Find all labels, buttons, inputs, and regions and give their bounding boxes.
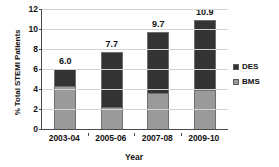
y-axis-tickmark: [39, 9, 42, 10]
bar-stack[interactable]: [147, 32, 169, 129]
y-axis-tick-label: 8: [16, 45, 38, 54]
gridline: [42, 9, 228, 10]
bar-segment-des[interactable]: [54, 69, 76, 86]
x-axis-tickmark: [181, 133, 182, 136]
y-axis-tick-label: 4: [16, 85, 38, 94]
y-axis-tickmark: [39, 69, 42, 70]
bar-segment-bms[interactable]: [101, 107, 123, 129]
y-axis-tickmark: [39, 29, 42, 30]
gridline: [42, 29, 228, 30]
legend-swatch-icon: [233, 79, 239, 85]
stacked-bar-chart: % Total STEMI Patients 024681012 6.07.79…: [0, 0, 279, 167]
x-axis-tick-label: 2009-10: [188, 133, 219, 143]
legend-swatch-icon: [233, 64, 239, 70]
gridline: [42, 69, 228, 70]
y-axis-tickmark: [39, 49, 42, 50]
chart-legend: DESBMS: [233, 62, 277, 92]
legend-item[interactable]: BMS: [233, 77, 277, 86]
y-axis-tickmark: [39, 109, 42, 110]
x-axis-tick-label: 2003-04: [49, 133, 80, 143]
legend-item[interactable]: DES: [233, 62, 277, 71]
legend-label: BMS: [242, 78, 260, 86]
y-axis-tick-labels: 024681012: [16, 5, 38, 129]
gridline: [42, 89, 228, 90]
plot-area: 6.07.79.710.9: [41, 9, 228, 130]
bar-stack[interactable]: [194, 20, 216, 129]
gridline: [42, 49, 228, 50]
legend-label: DES: [242, 63, 258, 71]
bar-stack[interactable]: [101, 52, 123, 129]
x-axis-title: Year: [41, 152, 227, 162]
bar-segment-bms[interactable]: [54, 86, 76, 129]
y-axis-tick-label: 6: [16, 65, 38, 74]
y-axis-tick-label: 10: [16, 25, 38, 34]
bar-segment-des[interactable]: [101, 52, 123, 107]
y-axis-tick-label: 12: [16, 5, 38, 14]
bar-segment-des[interactable]: [147, 32, 169, 93]
y-axis-tickmark: [39, 89, 42, 90]
y-axis-tick-label: 2: [16, 105, 38, 114]
bar-segment-bms[interactable]: [147, 93, 169, 129]
x-axis-tick-label: 2007-08: [142, 133, 173, 143]
x-axis-tickmark: [88, 133, 89, 136]
x-axis-tickmark: [134, 133, 135, 136]
gridline: [42, 109, 228, 110]
bar-total-label: 9.7: [152, 20, 165, 29]
x-axis-tick-labels: 2003-042005-062007-082009-10: [41, 133, 227, 147]
bar-stack[interactable]: [54, 69, 76, 129]
bar-total-label: 6.0: [59, 57, 72, 66]
y-axis-tick-label: 0: [16, 125, 38, 134]
x-axis-tick-label: 2005-06: [95, 133, 126, 143]
bar-segment-des[interactable]: [194, 20, 216, 90]
bar-total-label: 7.7: [105, 40, 118, 49]
y-axis-tickmark: [39, 129, 42, 130]
